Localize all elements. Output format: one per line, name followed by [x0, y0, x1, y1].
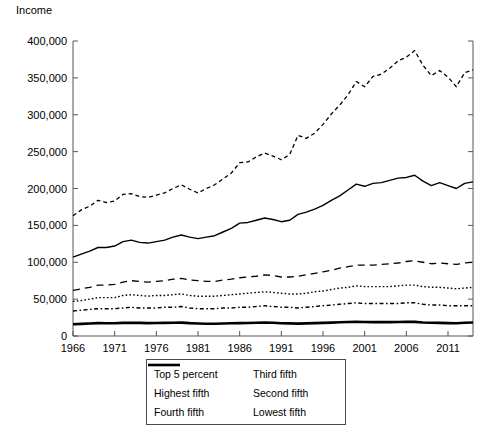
legend-item[interactable]: Third fifth: [246, 369, 345, 380]
y-tick-label: 250,000: [7, 146, 67, 158]
y-tick-label: 400,000: [7, 35, 67, 47]
income-quintile-line-chart: Income 050,000100,000150,000200,000250,0…: [0, 0, 490, 445]
x-tick-label: 1996: [301, 342, 345, 354]
y-tick-label: 350,000: [7, 72, 67, 84]
series-line-second-fifth: [73, 303, 473, 311]
y-tick-label: 150,000: [7, 219, 67, 231]
legend-item[interactable]: Lowest fifth: [246, 407, 345, 418]
chart-legend: Top 5 percentThird fifthHighest fifthSec…: [146, 359, 346, 425]
y-tick-label: 50,000: [7, 293, 67, 305]
legend-label: Lowest fifth: [253, 407, 306, 418]
legend-item[interactable]: Second fifth: [246, 388, 345, 399]
series-line-highest-fifth: [73, 175, 473, 257]
series-line-third-fifth: [73, 285, 473, 301]
legend-item[interactable]: Fourth fifth: [147, 407, 246, 418]
y-tick-label: 300,000: [7, 109, 67, 121]
legend-label: Second fifth: [253, 388, 308, 399]
axis-frame: [73, 41, 473, 336]
x-tick-label: 1991: [259, 342, 303, 354]
legend-label: Fourth fifth: [154, 407, 204, 418]
series-line-fourth-fifth: [73, 261, 473, 291]
x-tick-label: 1981: [176, 342, 220, 354]
legend-item[interactable]: Highest fifth: [147, 388, 246, 399]
y-tick-label: 100,000: [7, 256, 67, 268]
x-tick-label: 1966: [51, 342, 95, 354]
series-line-lowest-fifth: [73, 322, 473, 324]
x-tick-label: 2001: [343, 342, 387, 354]
legend-label: Third fifth: [253, 369, 297, 380]
x-tick-label: 2006: [384, 342, 428, 354]
x-tick-label: 2011: [426, 342, 470, 354]
legend-item[interactable]: Top 5 percent: [147, 369, 246, 380]
x-tick-label: 1971: [93, 342, 137, 354]
x-tick-label: 1986: [218, 342, 262, 354]
y-tick-label: 200,000: [7, 183, 67, 195]
legend-label: Top 5 percent: [154, 369, 218, 380]
legend-swatch-thick-solid: [147, 360, 181, 370]
y-tick-label: 0: [7, 330, 67, 342]
x-tick-label: 1976: [134, 342, 178, 354]
legend-label: Highest fifth: [154, 388, 209, 399]
series-line-top-5-percent: [73, 51, 473, 216]
